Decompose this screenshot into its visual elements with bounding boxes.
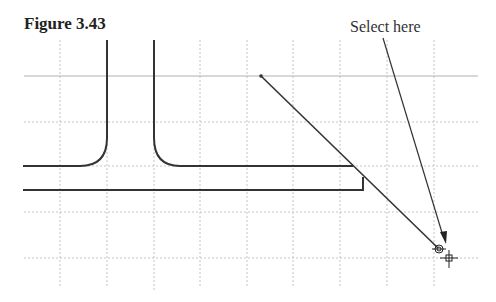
cad-drawing-canvas[interactable]	[0, 0, 496, 302]
endpoint-marker	[259, 74, 263, 78]
part-outline[interactable]	[23, 40, 363, 190]
trim-line[interactable]	[259, 74, 438, 248]
snap-marker	[432, 245, 446, 253]
crosshair-cursor-icon	[440, 250, 458, 268]
arrowhead-icon	[440, 231, 447, 244]
leader-arrow	[383, 38, 447, 244]
